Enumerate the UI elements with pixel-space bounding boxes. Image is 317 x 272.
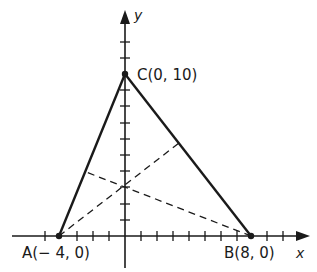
point-a-label: A(− 4, 0) bbox=[22, 244, 90, 262]
x-axis-label: x bbox=[295, 245, 305, 261]
point-c bbox=[122, 71, 128, 77]
point-b bbox=[248, 233, 254, 239]
coordinate-plane: y x C(0, 10) A(− 4, 0) B(8, 0) bbox=[0, 0, 317, 272]
triangle-abc bbox=[59, 74, 251, 236]
point-a bbox=[56, 233, 62, 239]
y-axis-label: y bbox=[133, 7, 143, 23]
point-b-label: B(8, 0) bbox=[224, 244, 275, 262]
side-cb bbox=[125, 74, 251, 236]
y-axis-arrow-icon bbox=[120, 10, 130, 24]
side-ac bbox=[59, 74, 125, 236]
point-c-label: C(0, 10) bbox=[137, 66, 197, 84]
x-axis-arrow-icon bbox=[296, 231, 310, 241]
altitudes bbox=[59, 143, 251, 236]
